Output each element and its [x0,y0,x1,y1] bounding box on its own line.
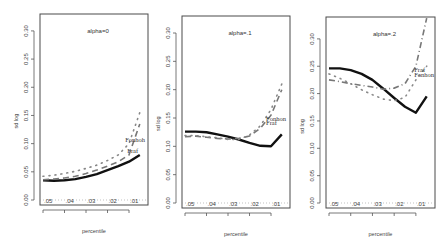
x-tick-label: .02 [251,201,260,207]
x-tick-label: .05 [330,201,339,207]
plot-frame [182,16,290,208]
x-tick-label: .03 [229,201,238,207]
y-tick-label: 0.15 [165,112,171,124]
y-tick-label: 0.15 [23,109,29,121]
panel-title: alpha=.1 [228,30,252,36]
y-tick-label: 0.05 [309,169,315,181]
panel-3: 0.000.050.100.150.200.250.30sd log.05.04… [299,17,435,237]
y-tick-label: 0.20 [309,87,315,99]
x-tick-label: .04 [352,201,361,207]
y-tick-label: 0.25 [23,53,29,65]
x-tick-label: .01 [417,201,426,207]
y-tick-label: 0.10 [165,140,171,152]
panel-title: alpha=0 [87,28,109,34]
plot-frame [326,17,435,208]
y-tick-label: 0.30 [165,27,171,39]
annotation-label: Fonhon [414,71,435,78]
y-tick-label: 0.10 [23,137,29,149]
annotation-label: Fraf [266,119,278,126]
x-tick-label: .01 [130,198,139,204]
series-line-solid [329,68,427,112]
series-line-fraf [329,18,427,89]
y-tick-label: 0.20 [165,83,171,95]
plot-frame [40,14,148,205]
series-line-fraf [43,124,140,180]
x-axis-label: percentile [82,228,106,234]
panel-title: alpha=.2 [373,31,397,37]
x-tick-label: .03 [87,198,96,204]
y-tick-label: 0.10 [309,142,315,154]
y-tick-label: 0.30 [309,32,315,44]
y-tick-label: 0.00 [165,197,171,209]
x-tick-label: .02 [395,201,404,207]
y-tick-label: 0.00 [23,194,29,206]
x-axis-label: percentile [224,231,248,237]
y-axis-label: sd log [13,114,19,129]
y-tick-label: 0.00 [309,197,315,209]
chart-figure: 0.000.050.100.150.200.250.30sd log.05.04… [0,0,448,245]
x-tick-label: .05 [186,201,195,207]
y-tick-label: 0.25 [165,55,171,67]
series-line-fonhoh [43,113,140,177]
y-axis-label: sd log [155,116,161,131]
x-tick-label: .04 [66,198,75,204]
y-tick-label: 0.15 [309,114,315,126]
series-line-solid [43,155,140,181]
x-tick-label: .01 [272,201,281,207]
panel-1: 0.000.050.100.150.200.250.30sd log.05.04… [13,14,148,234]
panel-2: 0.000.050.100.150.200.250.30sd log.05.04… [155,16,290,237]
y-tick-label: 0.05 [23,165,29,177]
y-tick-label: 0.05 [165,168,171,180]
y-axis-label: sd log [299,119,305,134]
x-tick-label: .04 [208,201,217,207]
y-tick-label: 0.25 [309,60,315,72]
x-tick-label: .03 [373,201,382,207]
x-tick-label: .02 [109,198,118,204]
x-axis-label: percentile [369,231,393,237]
y-tick-label: 0.20 [23,81,29,93]
y-tick-label: 0.30 [23,24,29,36]
annotation-label: Fraf [127,147,139,154]
annotation-label: Fonhoh [125,136,146,143]
x-tick-label: .05 [44,198,53,204]
